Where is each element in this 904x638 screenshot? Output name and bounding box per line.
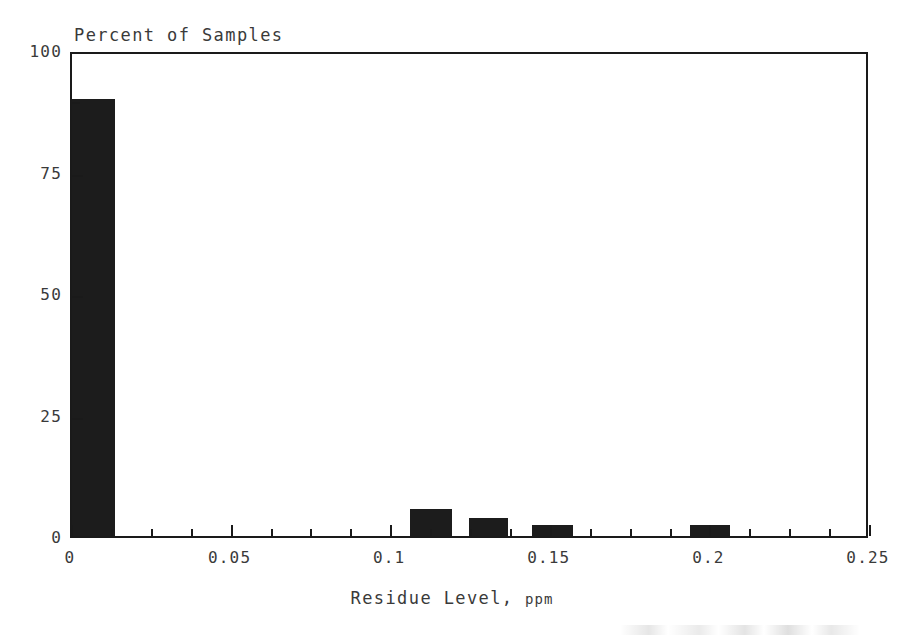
y-major-tick xyxy=(72,296,83,298)
x-tick-label-5: 0.25 xyxy=(846,548,889,567)
x-minor-tick xyxy=(350,529,352,536)
x-tick-label-4: 0.2 xyxy=(692,548,725,567)
y-minor-tick xyxy=(72,102,80,104)
y-tick-label-2: 50 xyxy=(0,285,62,304)
x-minor-tick xyxy=(111,529,113,536)
y-tick-label-4: 100 xyxy=(0,42,62,61)
x-minor-tick xyxy=(630,529,632,536)
x-minor-tick xyxy=(829,529,831,536)
y-tick-label-1: 25 xyxy=(0,407,62,426)
x-minor-tick xyxy=(271,529,273,536)
y-tick-label-3: 75 xyxy=(0,164,62,183)
x-tick-label-1: 0.05 xyxy=(208,548,251,567)
plot-area xyxy=(70,52,868,538)
x-minor-tick xyxy=(430,529,432,536)
y-major-tick xyxy=(72,418,83,420)
histogram-figure: Percent of Samples Residue Level, ppm 00… xyxy=(0,0,904,638)
x-major-tick xyxy=(231,525,233,536)
scan-artifact xyxy=(620,625,860,635)
x-major-tick xyxy=(550,525,552,536)
y-tick-label-0: 0 xyxy=(0,528,62,547)
x-major-tick xyxy=(71,525,73,536)
x-tick-label-3: 0.15 xyxy=(527,548,570,567)
bar-2 xyxy=(469,518,507,536)
bar-3 xyxy=(532,525,573,536)
y-major-tick xyxy=(72,175,83,177)
x-minor-tick xyxy=(510,529,512,536)
x-minor-tick xyxy=(670,529,672,536)
x-minor-tick xyxy=(749,529,751,536)
x-major-tick xyxy=(709,525,711,536)
x-major-tick xyxy=(869,525,871,536)
x-minor-tick xyxy=(151,529,153,536)
x-axis-title-unit: ppm xyxy=(525,591,553,607)
bar-0 xyxy=(72,99,115,536)
x-minor-tick xyxy=(310,529,312,536)
x-minor-tick xyxy=(470,529,472,536)
x-tick-label-0: 0 xyxy=(65,548,76,567)
y-axis-title: Percent of Samples xyxy=(74,25,283,45)
x-tick-label-2: 0.1 xyxy=(373,548,406,567)
x-minor-tick xyxy=(590,529,592,536)
x-minor-tick xyxy=(789,529,791,536)
x-major-tick xyxy=(390,525,392,536)
x-axis-title-main: Residue Level, xyxy=(351,588,526,608)
x-axis-title: Residue Level, ppm xyxy=(0,588,904,608)
x-minor-tick xyxy=(191,529,193,536)
